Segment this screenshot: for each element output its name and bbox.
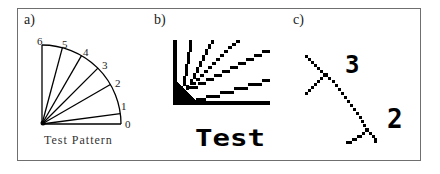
angle-label-5: 5 — [62, 38, 68, 50]
panel-b-pixel-caption: Test — [195, 125, 265, 151]
panel-b-caption: Test — [195, 125, 265, 151]
panel-a-fan-diagram — [41, 45, 122, 126]
angle-label-6: 6 — [37, 35, 43, 47]
marker-label-2: 2 — [387, 104, 403, 134]
figure-canvas: 0 1 2 3 4 5 6 Test Pattern — [0, 0, 440, 174]
panel-a-caption: Test Pattern — [44, 133, 113, 147]
angle-label-2: 2 — [115, 77, 121, 89]
angle-label-3: 3 — [102, 59, 108, 71]
angle-label-1: 1 — [121, 100, 127, 112]
marker-label-3: 3 — [345, 51, 359, 79]
panel-b-raster-fan — [173, 40, 270, 105]
angle-label-0: 0 — [125, 118, 131, 130]
panel-c-raster-lines — [305, 55, 377, 144]
angle-label-4: 4 — [83, 46, 89, 58]
